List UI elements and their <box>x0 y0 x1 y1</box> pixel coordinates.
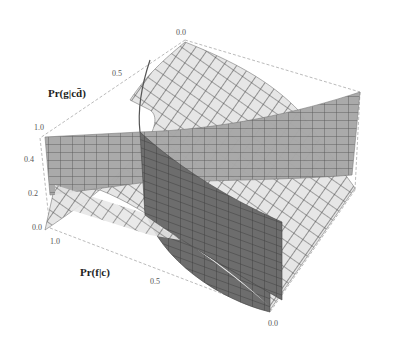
y-axis-label: Pr(g|cd̄) <box>48 87 86 100</box>
y-tick-0: 0.0 <box>176 28 186 37</box>
z-tick-00: 0.0 <box>32 223 42 232</box>
y-tick-1: 1.0 <box>34 123 44 132</box>
x-tick-05: 0.5 <box>150 277 160 286</box>
z-tick-04: 0.4 <box>24 155 34 164</box>
x-axis-label: Pr(f|c) <box>80 266 110 279</box>
x-tick-0: 0.0 <box>268 319 278 328</box>
x-tick-1: 1.0 <box>50 237 60 246</box>
y-tick-05: 0.5 <box>112 69 122 78</box>
z-tick-02: 0.2 <box>28 189 38 198</box>
3d-surface-plot: 0.0 0.5 1.0 0.4 0.2 0.0 1.0 0.5 0.0 Pr(g… <box>0 0 418 348</box>
